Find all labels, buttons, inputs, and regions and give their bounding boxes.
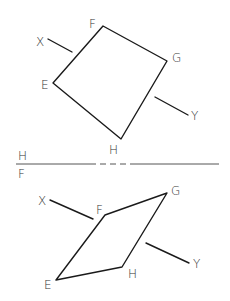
front-view-label-x: X (38, 194, 46, 208)
front-view-label-e: E (44, 278, 52, 292)
orthographic-projection-diagram: X F G E Y H H F X F G H Y E (0, 0, 230, 301)
front-view-label-y: Y (193, 257, 201, 271)
top-view-label-e: E (41, 78, 49, 92)
folding-line-label-f: F (18, 167, 25, 181)
front-view-quadrilateral-efgh (56, 193, 167, 280)
front-view-label-f: F (96, 203, 103, 217)
top-view-label-h: H (109, 143, 118, 157)
top-view-line-x (48, 39, 72, 52)
front-view: X F G H Y E (38, 184, 201, 292)
top-view-label-g: G (172, 51, 181, 65)
top-view-label-y: Y (191, 109, 199, 123)
front-view-label-g: G (171, 184, 180, 198)
top-view-label-x: X (36, 35, 44, 49)
front-view-line-y (146, 243, 189, 263)
top-view-line-y (155, 97, 188, 115)
top-view-label-f: F (89, 17, 96, 31)
top-view-quadrilateral-efgh (53, 26, 167, 139)
folding-line-label-h: H (18, 149, 27, 163)
front-view-line-x (50, 200, 93, 219)
top-view: X F G E Y H (36, 17, 199, 157)
front-view-label-h: H (128, 267, 137, 281)
